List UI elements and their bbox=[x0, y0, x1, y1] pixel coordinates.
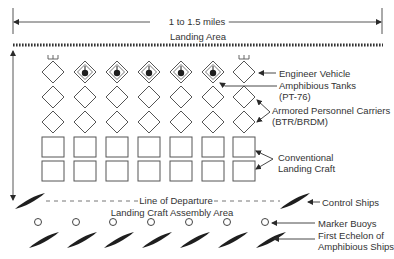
amphibious-tanks-label-line2: (PT-76) bbox=[279, 91, 356, 102]
engineer-vehicle-symbol bbox=[233, 55, 255, 83]
marker-buoys-label: Marker Buoys bbox=[318, 218, 377, 229]
landing-craft-label-line2: Landing Craft bbox=[278, 163, 335, 174]
amphibious-ship-icon bbox=[67, 232, 97, 248]
amphibious-ship-icon bbox=[142, 232, 172, 248]
landing-craft-symbol bbox=[138, 137, 160, 157]
amphibious-tank-symbol bbox=[106, 61, 128, 83]
apc-symbol bbox=[170, 86, 192, 108]
landing-craft-symbol bbox=[74, 137, 96, 157]
amphibious-tank-symbol bbox=[74, 61, 96, 83]
landing-craft-symbol bbox=[106, 161, 128, 181]
landing-craft-symbol bbox=[42, 161, 64, 181]
amphibious-ship-icon bbox=[29, 232, 59, 248]
first-echelon-label-line1: First Echelon of bbox=[318, 230, 394, 241]
apc-symbol bbox=[233, 86, 255, 108]
marker-buoy-icon bbox=[148, 219, 155, 226]
amphibious-ship-icon bbox=[256, 232, 286, 248]
landing-craft-symbol bbox=[170, 161, 192, 181]
landing-craft-symbol bbox=[138, 161, 160, 181]
control-ship-icon bbox=[280, 193, 310, 209]
apc-symbol bbox=[106, 86, 128, 108]
assembly-area-label: Landing Craft Assembly Area bbox=[111, 207, 234, 218]
apc-symbol bbox=[202, 86, 224, 108]
amphibious-tank-symbol bbox=[202, 61, 224, 83]
marker-buoys bbox=[35, 219, 269, 226]
apc-symbol bbox=[138, 86, 160, 108]
landing-craft-symbol bbox=[106, 137, 128, 157]
marker-buoy-icon bbox=[73, 219, 80, 226]
amphibious-ship-icon bbox=[218, 232, 248, 248]
marker-buoy-icon bbox=[110, 219, 117, 226]
apc-symbol bbox=[74, 111, 96, 133]
amphibious-tanks-label: Amphibious Tanks (PT-76) bbox=[279, 80, 356, 102]
marker-buoy-icon bbox=[262, 219, 269, 226]
landing-craft-symbol bbox=[233, 137, 255, 157]
landing-craft-symbol bbox=[74, 161, 96, 181]
apc-symbol bbox=[202, 111, 224, 133]
formation-grid bbox=[42, 55, 255, 181]
control-ship-icon bbox=[15, 193, 45, 209]
apc-label-line2: (BTR/BRDM) bbox=[272, 116, 390, 127]
amphibious-tank-symbol bbox=[138, 61, 160, 83]
first-echelon-ships bbox=[29, 232, 286, 248]
amphibious-tank-symbol bbox=[170, 61, 192, 83]
marker-buoy-icon bbox=[35, 219, 42, 226]
marker-buoy-icon bbox=[186, 219, 193, 226]
amphibious-tanks-label-line1: Amphibious Tanks bbox=[279, 80, 356, 91]
control-ships-label: Control Ships bbox=[322, 197, 379, 208]
landing-craft-symbol bbox=[202, 161, 224, 181]
line-of-departure-label: Line of Departure bbox=[139, 195, 212, 206]
apc-symbol bbox=[138, 111, 160, 133]
apc-label: Armored Personnel Carriers (BTR/BRDM) bbox=[272, 105, 390, 127]
engineer-vehicle-symbol bbox=[42, 55, 64, 83]
first-echelon-label: First Echelon of Amphibious Ships bbox=[318, 230, 394, 252]
first-echelon-label-line2: Amphibious Ships bbox=[318, 241, 394, 252]
landing-craft-symbol bbox=[170, 137, 192, 157]
landing-craft-label-line1: Conventional bbox=[278, 152, 335, 163]
width-label: 1 to 1.5 miles bbox=[166, 16, 229, 27]
apc-symbol bbox=[233, 111, 255, 133]
landing-area-label: Landing Area bbox=[170, 31, 226, 42]
apc-symbol bbox=[42, 111, 64, 133]
amphibious-ship-icon bbox=[104, 232, 134, 248]
apc-symbol bbox=[170, 111, 192, 133]
landing-craft-label: Conventional Landing Craft bbox=[278, 152, 335, 174]
landing-craft-symbol bbox=[202, 137, 224, 157]
amphibious-ship-icon bbox=[180, 232, 210, 248]
apc-symbol bbox=[106, 111, 128, 133]
landing-craft-symbol bbox=[233, 161, 255, 181]
landing-craft-symbol bbox=[42, 137, 64, 157]
marker-buoy-icon bbox=[224, 219, 231, 226]
apc-symbol bbox=[42, 86, 64, 108]
apc-symbol bbox=[74, 86, 96, 108]
apc-label-line1: Armored Personnel Carriers bbox=[272, 105, 390, 116]
engineer-vehicle-label: Engineer Vehicle bbox=[279, 68, 350, 79]
